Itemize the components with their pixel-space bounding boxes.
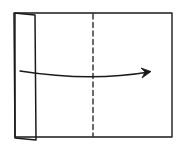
- fold-arrow-shaft: [20, 71, 149, 77]
- folded-flap: [14, 13, 36, 140]
- folding-diagram: [0, 0, 181, 148]
